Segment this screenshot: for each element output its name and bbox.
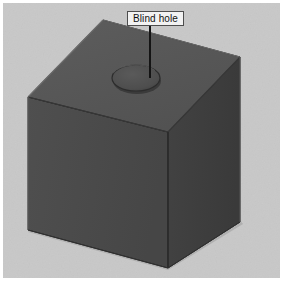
blind-hole-illustration [0,0,283,281]
blind-hole-callout-label: Blind hole [127,11,184,26]
figure-container: Blind hole [0,0,283,281]
